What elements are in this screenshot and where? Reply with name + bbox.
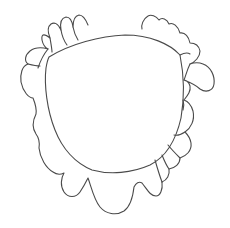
mane-inner-stroke	[155, 160, 162, 182]
mane-inner-stroke	[180, 53, 190, 55]
inner-head-outline	[45, 35, 183, 173]
mane-inner-stroke	[28, 64, 40, 66]
mane-inner-stroke	[73, 27, 78, 40]
mane-inner-stroke	[50, 38, 52, 52]
mane-inner-stroke	[162, 155, 169, 169]
mane-inner-stroke	[61, 30, 67, 45]
drawing-canvas: Line drawing of a rounded shield-like he…	[0, 0, 230, 228]
mane-inner-stroke	[168, 145, 180, 158]
mane-inner-stroke	[184, 64, 190, 80]
outer-scalloped-mane-left	[21, 15, 162, 214]
outer-scalloped-mane-right	[142, 15, 214, 182]
mane-inner-stroke	[174, 132, 185, 135]
